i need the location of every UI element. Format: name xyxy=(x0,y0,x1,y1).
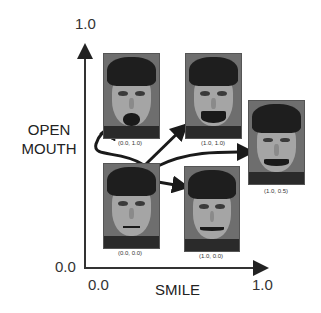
face-image-neutral xyxy=(103,163,160,249)
arrow-to-smile-half-open xyxy=(158,152,252,166)
y-axis-min-tick: 0.0 xyxy=(55,258,76,275)
face-label-smile-closed: (1.0, 0.0) xyxy=(181,253,241,259)
arrow-to-smile-closed xyxy=(158,182,187,187)
x-axis-max-tick: 1.0 xyxy=(252,276,273,293)
face-image-open-mouth xyxy=(103,53,160,139)
face-label-smile-half-open: (1.0, 0.5) xyxy=(246,188,306,194)
x-axis-min-tick: 0.0 xyxy=(88,276,109,293)
x-axis-title: SMILE xyxy=(155,280,200,299)
face-label-smile-open: (1.0, 1.0) xyxy=(183,140,243,146)
face-image-smile-closed xyxy=(184,166,240,252)
face-label-neutral: (0.0, 0.0) xyxy=(100,250,160,256)
y-axis-max-tick: 1.0 xyxy=(75,15,96,32)
y-axis-title: OPEN MOUTH xyxy=(21,120,77,158)
face-image-smile-half-open xyxy=(248,100,305,185)
y-axis-title-line1: OPEN xyxy=(21,120,77,139)
face-label-open-mouth: (0.0, 1.0) xyxy=(100,140,160,146)
y-axis-title-line2: MOUTH xyxy=(21,139,77,158)
face-image-smile-open xyxy=(185,53,242,139)
